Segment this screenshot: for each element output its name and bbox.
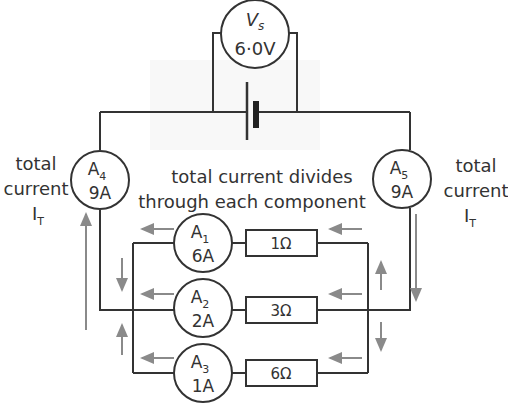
left-label-total: total bbox=[15, 153, 56, 174]
svg-text:2A: 2A bbox=[192, 311, 215, 331]
right-label-current: current bbox=[444, 180, 508, 201]
svg-text:9A: 9A bbox=[391, 182, 414, 202]
caption-line2: through each component bbox=[138, 191, 365, 212]
ammeter-a5: A5 9A bbox=[373, 150, 431, 208]
svg-text:9A: 9A bbox=[89, 183, 112, 203]
svg-text:6·0V: 6·0V bbox=[235, 38, 277, 59]
ammeter-a3: A3 1A bbox=[174, 344, 232, 402]
resistor-1ohm: 1Ω bbox=[246, 230, 317, 256]
resistor-6ohm: 6Ω bbox=[246, 360, 317, 386]
background-shading bbox=[150, 60, 320, 150]
voltmeter: Vs 6·0V bbox=[221, 0, 289, 68]
caption-line1: total current divides bbox=[171, 166, 353, 187]
battery-short-plate bbox=[253, 101, 259, 128]
svg-text:3Ω: 3Ω bbox=[270, 302, 291, 320]
parallel-circuit-diagram: Vs 6·0V A4 9A A5 9A A1 6A A2 2A A3 1A 1Ω… bbox=[0, 0, 508, 415]
resistor-3ohm: 3Ω bbox=[246, 297, 317, 323]
left-label-symbol: IT bbox=[32, 203, 44, 228]
svg-text:1A: 1A bbox=[192, 376, 215, 396]
right-label-total: total bbox=[455, 155, 496, 176]
svg-text:1Ω: 1Ω bbox=[270, 235, 291, 253]
ammeter-a4: A4 9A bbox=[71, 151, 129, 209]
right-label-symbol: IT bbox=[464, 205, 476, 230]
ammeter-a2: A2 2A bbox=[174, 279, 232, 337]
svg-text:6Ω: 6Ω bbox=[270, 365, 291, 383]
left-label-current: current bbox=[4, 178, 69, 199]
svg-text:6A: 6A bbox=[192, 246, 215, 266]
ammeter-a1: A1 6A bbox=[174, 214, 232, 272]
